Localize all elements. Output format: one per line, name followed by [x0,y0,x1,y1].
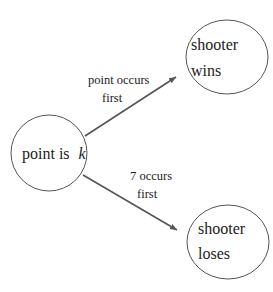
edge-point-to-wins: point occurs first [85,73,176,136]
node-point-label: point is k [22,145,87,163]
edge-wins-label-line1: point occurs [88,73,150,87]
edge-point-to-loses: 7 occurs first [83,169,177,230]
node-loses-line2: loses [198,245,230,262]
node-point-variable: k [79,145,87,162]
node-point-is-k: point is k [11,115,87,191]
node-loses-line1: shooter [198,220,246,237]
edge-loses-label-line2: first [137,187,158,201]
node-loses-circle [187,205,269,279]
arrow-point-to-loses [83,175,177,230]
node-wins-line1: shooter [191,36,239,53]
node-shooter-wins: shooter wins [186,20,268,94]
node-shooter-loses: shooter loses [187,205,269,279]
craps-point-diagram: point is k shooter wins shooter loses po… [0,0,273,292]
edge-loses-label-line1: 7 occurs [130,169,172,183]
node-wins-line2: wins [191,62,221,79]
node-wins-circle [186,20,268,94]
node-point-text: point is [22,145,70,163]
edge-wins-label-line2: first [102,91,123,105]
